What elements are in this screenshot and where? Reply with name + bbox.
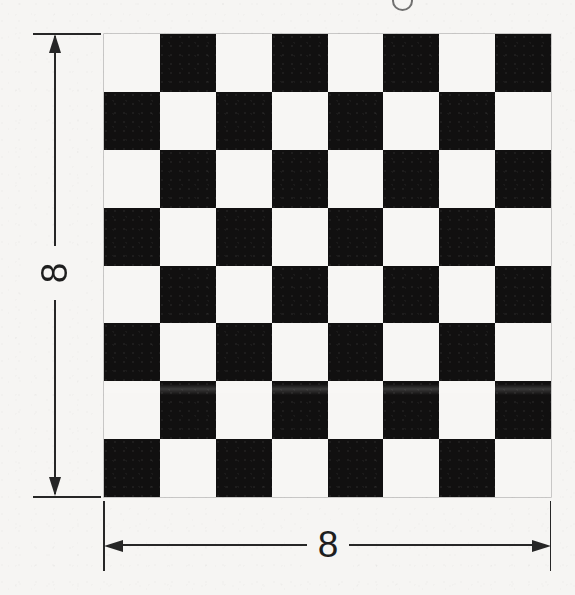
arrow-up-icon [49, 34, 61, 53]
board-square-r2c4 [272, 92, 328, 150]
board-square-r5c3 [216, 266, 272, 324]
board-square-r3c2 [160, 150, 216, 208]
horizontal-dimension-extension-line-right [550, 501, 552, 571]
arrow-left-icon [104, 540, 123, 552]
board-square-r4c6 [383, 208, 439, 266]
board-square-r8c1 [104, 439, 160, 497]
board-square-r1c2 [160, 34, 216, 92]
board-square-r2c7 [439, 92, 495, 150]
board-square-r6c6 [383, 323, 439, 381]
board-square-r4c1 [104, 208, 160, 266]
board-square-r6c5 [328, 323, 384, 381]
board-square-r8c3 [216, 439, 272, 497]
board-square-r7c4 [272, 381, 328, 439]
board-square-r7c5 [328, 381, 384, 439]
board-square-r2c3 [216, 92, 272, 150]
board-square-r7c7 [439, 381, 495, 439]
board-square-r5c5 [328, 266, 384, 324]
checkerboard-grid [104, 34, 551, 497]
board-square-r8c5 [328, 439, 384, 497]
board-square-r1c4 [272, 34, 328, 92]
board-square-r7c3 [216, 381, 272, 439]
board-square-r4c5 [328, 208, 384, 266]
board-square-r3c1 [104, 150, 160, 208]
board-square-r2c1 [104, 92, 160, 150]
arrow-down-icon [49, 477, 61, 496]
board-square-r8c8 [495, 439, 551, 497]
board-square-r8c2 [160, 439, 216, 497]
board-square-r5c7 [439, 266, 495, 324]
board-square-r4c2 [160, 208, 216, 266]
board-square-r5c8 [495, 266, 551, 324]
board-square-r3c7 [439, 150, 495, 208]
board-square-r7c2 [160, 381, 216, 439]
board-square-r4c3 [216, 208, 272, 266]
board-square-r5c1 [104, 266, 160, 324]
board-square-r3c4 [272, 150, 328, 208]
board-square-r3c8 [495, 150, 551, 208]
board-square-r3c5 [328, 150, 384, 208]
board-square-r2c8 [495, 92, 551, 150]
vertical-dimension-label: 8 [30, 246, 80, 300]
cropped-glyph-artifact [392, 0, 413, 11]
board-square-r6c3 [216, 323, 272, 381]
board-square-r7c6 [383, 381, 439, 439]
board-square-r6c2 [160, 323, 216, 381]
horizontal-dimension-line-left [115, 544, 307, 546]
board-square-r5c6 [383, 266, 439, 324]
horizontal-dimension-label: 8 [307, 520, 349, 570]
horizontal-dimension-extension-line-left [103, 501, 105, 571]
arrow-right-icon [532, 540, 551, 552]
board-square-r7c8 [495, 381, 551, 439]
board-square-r2c2 [160, 92, 216, 150]
board-square-r8c7 [439, 439, 495, 497]
board-square-r6c8 [495, 323, 551, 381]
board-square-r3c3 [216, 150, 272, 208]
board-square-r6c1 [104, 323, 160, 381]
board-square-r6c7 [439, 323, 495, 381]
board-square-r5c4 [272, 266, 328, 324]
board-square-r1c8 [495, 34, 551, 92]
board-square-r8c4 [272, 439, 328, 497]
board-square-r4c4 [272, 208, 328, 266]
board-square-r2c5 [328, 92, 384, 150]
board-square-r1c1 [104, 34, 160, 92]
board-square-r2c6 [383, 92, 439, 150]
figure-root: 8 8 [0, 0, 575, 595]
board-square-r8c6 [383, 439, 439, 497]
board-square-r4c8 [495, 208, 551, 266]
board-square-r1c3 [216, 34, 272, 92]
board-square-r3c6 [383, 150, 439, 208]
board-square-r6c4 [272, 323, 328, 381]
vertical-dimension-extension-line-bottom [33, 496, 101, 498]
board-square-r7c1 [104, 381, 160, 439]
horizontal-dimension-line-right [348, 544, 542, 546]
board-square-r5c2 [160, 266, 216, 324]
board-square-r4c7 [439, 208, 495, 266]
board-square-r1c6 [383, 34, 439, 92]
board-square-r1c5 [328, 34, 384, 92]
vertical-dimension-extension-line-top [33, 33, 101, 35]
board-square-r1c7 [439, 34, 495, 92]
